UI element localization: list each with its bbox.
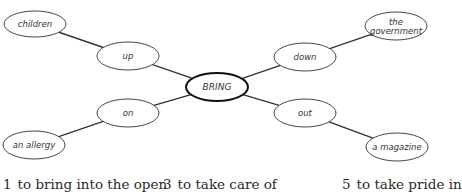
definition-text: to take pride in	[357, 176, 462, 192]
definition-number: 3	[163, 176, 172, 192]
definition-item-1: 1to bring into the open	[3, 176, 167, 192]
node-label: an allergy	[13, 140, 56, 150]
connector-down-government	[330, 34, 372, 48]
node-label: out	[298, 108, 313, 118]
connector-hub-on	[154, 95, 191, 106]
node-label: a magazine	[372, 142, 421, 152]
definition-item-3: 3to take care of	[163, 176, 277, 192]
node-magazine: a magazine	[366, 133, 428, 161]
definition-text: to bring into the open	[18, 176, 168, 192]
node-children: children	[4, 11, 66, 37]
connector-hub-up	[153, 65, 193, 79]
definition-text: to take care of	[178, 176, 277, 192]
node-label: up	[123, 51, 134, 61]
node-allergy: an allergy	[3, 131, 65, 159]
connector-hub-out	[243, 95, 279, 106]
node-government: thegovernment	[365, 12, 427, 40]
node-out: out	[274, 99, 336, 127]
hub-node-bring: BRING	[186, 73, 248, 101]
definition-number: 1	[3, 176, 12, 192]
definition-number: 5	[342, 176, 351, 192]
node-up: up	[97, 42, 159, 70]
node-label: down	[294, 52, 317, 62]
connector-hub-down	[242, 65, 281, 78]
connector-on-allergy	[59, 121, 103, 136]
definitions-row: 1to bring into the open 3to take care of…	[0, 176, 453, 196]
node-on: on	[97, 99, 159, 127]
node-label: on	[123, 108, 134, 118]
connector-up-children	[59, 32, 103, 47]
hub-label: BRING	[203, 82, 232, 92]
connector-out-magazine	[329, 122, 373, 138]
node-label: government	[370, 26, 423, 36]
node-label: children	[18, 19, 52, 29]
node-down: down	[274, 43, 336, 71]
definition-item-5: 5to take pride in	[342, 176, 462, 192]
mind-map-diagram: updownonoutchildrenthegovernmentan aller…	[0, 0, 453, 175]
